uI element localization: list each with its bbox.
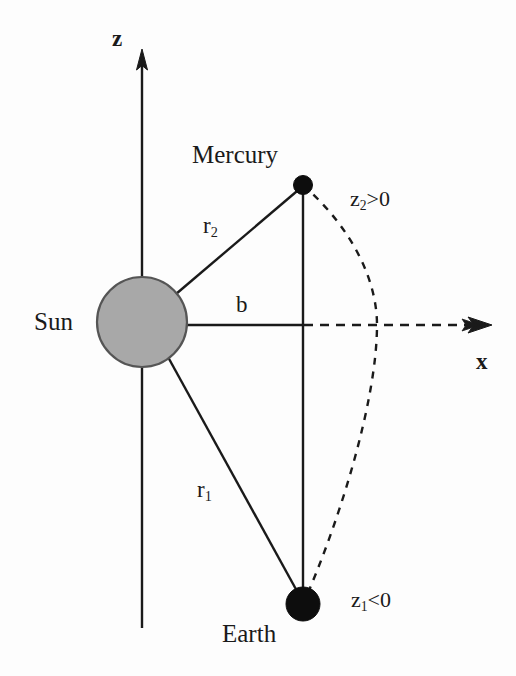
z2-base: z	[350, 186, 360, 211]
annotation-z1-negative: z1<0	[351, 589, 391, 614]
z1-relation: <0	[368, 587, 391, 612]
body-earth-dot	[286, 587, 320, 621]
body-sun-disc	[97, 277, 187, 367]
x-axis-label: x	[476, 350, 488, 373]
light-ray-dashed-curve	[303, 185, 377, 602]
earth-label: Earth	[222, 621, 276, 646]
z2-subscript: 2	[360, 198, 367, 213]
z1-subscript: 1	[361, 599, 368, 614]
z-axis-label: z	[112, 27, 122, 50]
body-mercury-dot	[294, 176, 313, 195]
segment-r2-sun-to-mercury	[176, 186, 303, 294]
z2-relation: >0	[367, 186, 390, 211]
mercury-label: Mercury	[192, 142, 278, 167]
diagram-svg	[0, 0, 516, 676]
r1-subscript: 1	[205, 488, 212, 504]
r2-base: r	[203, 213, 211, 238]
figure-canvas: z x Sun Mercury Earth r2 r1 b z2>0 z1<0	[0, 0, 516, 676]
segment-r1-label: r1	[197, 478, 212, 504]
segment-r1-sun-to-earth	[168, 357, 303, 602]
r1-base: r	[197, 477, 205, 502]
segment-r2-label: r2	[203, 214, 218, 240]
z1-base: z	[351, 587, 361, 612]
impact-parameter-b-label: b	[236, 293, 248, 316]
r2-subscript: 2	[211, 224, 218, 240]
sun-label: Sun	[34, 309, 73, 334]
annotation-z2-positive: z2>0	[350, 188, 390, 213]
